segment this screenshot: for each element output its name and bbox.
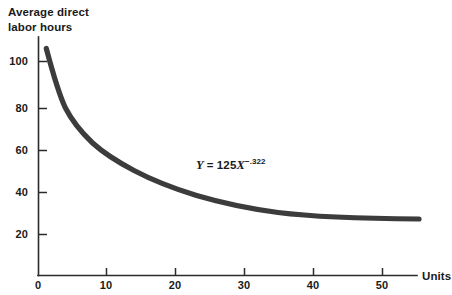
x-tick-label-20: 20	[163, 279, 187, 291]
equation-exponent: −.322	[245, 157, 265, 166]
learning-curve-path	[46, 49, 419, 220]
equation-lhs-variable: Y	[196, 158, 204, 172]
y-tick-label-60: 60	[2, 144, 28, 156]
y-tick-label-100: 100	[2, 55, 28, 67]
x-tick-label-30: 30	[232, 279, 256, 291]
learning-curve-chart: Average direct labor hours 100 80 60 40 …	[0, 0, 452, 295]
x-tick-label-0: 0	[26, 279, 50, 291]
equation-equals-sign: =	[204, 159, 217, 171]
chart-canvas	[0, 0, 452, 295]
equation-base-variable: X	[237, 158, 246, 172]
y-tick-label-80: 80	[2, 102, 28, 114]
x-tick-label-10: 10	[94, 279, 118, 291]
y-tick-label-20: 20	[2, 228, 28, 240]
y-tick-label-40: 40	[2, 186, 28, 198]
equation-coefficient: 125	[217, 159, 237, 171]
x-axis-title: Units	[422, 270, 451, 282]
y-axis-title: Average direct labor hours	[8, 5, 89, 34]
curve-equation-annotation: Y=125X−.322	[196, 157, 265, 173]
x-tick-label-50: 50	[370, 279, 394, 291]
x-tick-label-40: 40	[301, 279, 325, 291]
